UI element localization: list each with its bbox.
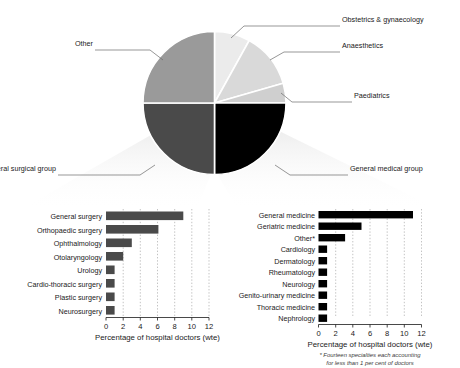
- bar-other-medical[interactable]: [319, 234, 346, 241]
- right-bars: [319, 211, 414, 322]
- right-tick-4: 4: [351, 329, 355, 338]
- bar-cardiology[interactable]: [319, 246, 328, 253]
- left-tick-4: 4: [138, 322, 142, 331]
- pie-label-general-medical: General medical group: [350, 164, 423, 173]
- cat-label-neurology: Neurology: [282, 280, 315, 289]
- bar-ophthalmology[interactable]: [106, 239, 132, 248]
- leader-paediatrics: [281, 93, 352, 102]
- left-category-labels: General surgery Orthopaedic surgery Opht…: [27, 212, 102, 316]
- right-tick-0: 0: [316, 329, 320, 338]
- bar-urology[interactable]: [106, 266, 115, 275]
- pie-label-paediatrics: Paediatrics: [354, 91, 390, 100]
- cat-label-thoracic-medicine: Thoracic medicine: [257, 303, 315, 312]
- bar-plastic-surgery[interactable]: [106, 293, 115, 302]
- pie-label-other: Other: [75, 39, 94, 48]
- right-tick-marks: [319, 325, 422, 328]
- bar-neurology[interactable]: [319, 280, 328, 287]
- right-tick-2: 2: [334, 329, 338, 338]
- left-bars: [106, 212, 183, 315]
- footnote-line-2: for less than 1 per cent of doctors: [326, 360, 413, 366]
- bar-general-surgery[interactable]: [106, 212, 183, 221]
- left-tick-0: 0: [104, 322, 108, 331]
- bar-cardio-thoracic-surgery[interactable]: [106, 279, 115, 288]
- left-bar-chart: General surgery Orthopaedic surgery Opht…: [27, 209, 220, 342]
- bar-otolaryngology[interactable]: [106, 252, 123, 261]
- pie-label-general-surgical: General surgical group: [0, 164, 56, 173]
- chart-canvas: Obstetrics & gynaecology Anaesthetics Pa…: [0, 0, 460, 368]
- cat-label-urology: Urology: [77, 266, 102, 275]
- right-tick-6: 6: [368, 329, 372, 338]
- cat-label-rheumatology: Rheumatology: [269, 268, 316, 277]
- cat-label-cardiology: Cardiology: [281, 245, 316, 254]
- leader-anaesthetics: [270, 52, 340, 60]
- cat-label-otolaryngology: Otolaryngology: [54, 253, 103, 262]
- left-tick-10: 10: [188, 322, 196, 331]
- right-tick-labels: 0 2 4 6 8 10 12: [316, 329, 425, 338]
- bar-genito-urinary-medicine[interactable]: [319, 292, 328, 299]
- footnote-line-1: * Fourteen specialties each accounting: [319, 352, 421, 358]
- cat-label-dermatology: Dermatology: [274, 257, 315, 266]
- pie-label-anaesthetics: Anaesthetics: [342, 41, 384, 50]
- bar-orthopaedic-surgery[interactable]: [106, 225, 158, 234]
- left-tick-marks: [106, 318, 209, 321]
- cat-label-ophthalmology: Ophthalmology: [54, 239, 103, 248]
- left-tick-2: 2: [121, 322, 125, 331]
- cat-label-neurosurgery: Neurosurgery: [58, 307, 102, 316]
- cat-label-orthopaedic-surgery: Orthopaedic surgery: [37, 226, 103, 235]
- leader-obstetrics: [231, 26, 340, 38]
- right-axis-title: Percentage of hospital doctors (wte): [308, 340, 433, 349]
- bar-nephrology[interactable]: [319, 315, 328, 322]
- right-tick-8: 8: [385, 329, 389, 338]
- pie-label-obstetrics: Obstetrics & gynaecology: [342, 15, 424, 24]
- left-tick-6: 6: [155, 322, 159, 331]
- cat-label-plastic-surgery: Plastic surgery: [55, 293, 103, 302]
- right-bar-chart: General medicine Geriatric medicine Othe…: [239, 209, 433, 366]
- left-tick-12: 12: [205, 322, 213, 331]
- pie-chart: [143, 32, 286, 175]
- right-category-labels: General medicine Geriatric medicine Othe…: [239, 211, 316, 323]
- cat-label-general-medicine: General medicine: [259, 211, 315, 220]
- cat-label-nephrology: Nephrology: [278, 314, 315, 323]
- figure-root: Obstetrics & gynaecology Anaesthetics Pa…: [0, 0, 460, 368]
- left-tick-8: 8: [173, 322, 177, 331]
- cat-label-cardio-thoracic-surgery: Cardio-thoracic surgery: [27, 280, 102, 289]
- cat-label-general-surgery: General surgery: [50, 212, 102, 221]
- cat-label-other-medical: Other*: [294, 234, 315, 243]
- pie-slice-other[interactable]: [143, 32, 215, 104]
- bar-dermatology[interactable]: [319, 257, 328, 264]
- left-tick-labels: 0 2 4 6 8 10 12: [104, 322, 213, 331]
- bar-neurosurgery[interactable]: [106, 306, 115, 315]
- cat-label-genito-urinary-medicine: Genito-urinary medicine: [239, 291, 315, 300]
- bar-thoracic-medicine[interactable]: [319, 303, 328, 310]
- bar-general-medicine[interactable]: [319, 211, 414, 218]
- left-axis-title: Percentage of hospital doctors (wte): [95, 333, 220, 342]
- right-tick-10: 10: [400, 329, 408, 338]
- cat-label-geriatric-medicine: Geriatric medicine: [257, 222, 315, 231]
- bar-geriatric-medicine[interactable]: [319, 223, 362, 230]
- right-tick-12: 12: [417, 329, 425, 338]
- leader-other: [95, 50, 163, 60]
- bar-rheumatology[interactable]: [319, 269, 328, 276]
